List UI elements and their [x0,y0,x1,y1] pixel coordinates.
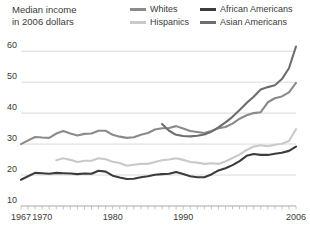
y-tick-label: 60 [7,40,17,50]
x-tick-label: 1990 [173,212,193,222]
x-axis [21,206,296,210]
x-tick-label: 2006 [286,212,306,222]
x-tick-label: 1970 [32,212,52,222]
y-tick-label: 30 [7,133,17,143]
y-tick-label: 10 [7,195,17,205]
y-tick-labels: 102030405060 [7,40,17,205]
series-line-asian-americans [162,47,296,137]
plot-area: 102030405060 19671970198019902006 [0,0,310,234]
x-tick-label: 1980 [103,212,123,222]
y-tick-label: 40 [7,102,17,112]
y-tick-label: 20 [7,164,17,174]
x-tick-labels: 19671970198019902006 [11,212,306,222]
y-tick-label: 50 [7,71,17,81]
x-tick-label: 1967 [11,212,31,222]
income-line-chart: Median income in 2006 dollars Whites Afr… [0,0,310,234]
